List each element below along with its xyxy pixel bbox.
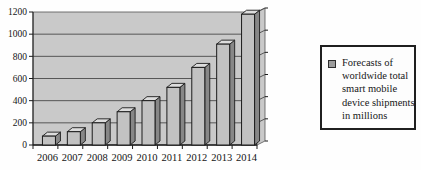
bar-side-face xyxy=(180,83,185,145)
x-axis-label: 2014 xyxy=(236,152,258,163)
legend-label: Forecasts of worldwide total smart mobil… xyxy=(342,56,411,122)
x-axis-label: 2006 xyxy=(37,152,58,163)
x-axis-label: 2010 xyxy=(137,152,158,163)
bar-2012 xyxy=(192,67,205,145)
x-axis-label: 2007 xyxy=(62,152,83,163)
legend-line: Forecasts of xyxy=(342,56,411,69)
y-axis-label: 1000 xyxy=(8,29,27,39)
y-axis-label: 0 xyxy=(22,140,27,150)
bar-2007 xyxy=(67,132,80,145)
bar-2011 xyxy=(167,87,180,145)
bar-side-face xyxy=(130,108,135,145)
y-axis-label: 800 xyxy=(13,52,28,62)
bar-side-face xyxy=(230,40,235,145)
bar-2013 xyxy=(217,44,230,145)
series-swatch-icon xyxy=(328,60,336,68)
x-axis-label: 2013 xyxy=(211,152,232,163)
y-axis-label: 400 xyxy=(13,96,28,106)
y-axis-label: 1200 xyxy=(8,7,27,17)
bar-side-face xyxy=(205,63,210,145)
bar-2006 xyxy=(42,136,55,145)
y-axis-label: 200 xyxy=(13,118,28,128)
y-axis-label: 600 xyxy=(13,74,28,84)
bar-side-face xyxy=(155,97,160,145)
legend-line: worldwide total xyxy=(342,69,411,82)
legend-box: Forecasts of worldwide total smart mobil… xyxy=(320,45,416,130)
legend-line: device shipments xyxy=(342,96,411,109)
bar-2009 xyxy=(117,112,130,145)
chart-figure: 0200400600800100012002006200720082009201… xyxy=(0,0,421,170)
legend-line: smart mobile xyxy=(342,82,411,95)
bar-2010 xyxy=(142,101,155,145)
x-axis-label: 2009 xyxy=(112,152,133,163)
bar-2008 xyxy=(92,123,105,145)
bar-2014 xyxy=(242,14,255,145)
x-axis-label: 2008 xyxy=(87,152,108,163)
bar-side-face xyxy=(255,10,260,145)
x-axis-label: 2011 xyxy=(162,152,183,163)
x-axis-label: 2012 xyxy=(186,152,207,163)
legend-line: in millions xyxy=(342,109,411,122)
